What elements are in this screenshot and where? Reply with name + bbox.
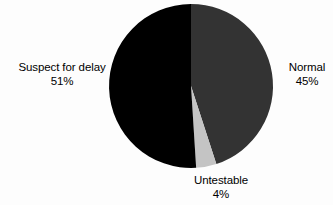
pie-label-suspect-for-delay-name: Suspect for delay xyxy=(12,61,112,75)
pie-label-untestable-name: Untestable xyxy=(182,174,260,188)
pie-slice-suspect xyxy=(109,4,196,168)
pie-label-untestable: Untestable 4% xyxy=(182,174,260,201)
pie-label-normal-value: 45% xyxy=(282,75,332,89)
pie-chart-graphic xyxy=(0,0,333,205)
pie-label-untestable-value: 4% xyxy=(182,188,260,202)
pie-label-suspect-for-delay: Suspect for delay 51% xyxy=(12,61,112,88)
pie-label-normal-name: Normal xyxy=(282,61,332,75)
pie-label-suspect-for-delay-value: 51% xyxy=(12,75,112,89)
pie-chart-figure: Suspect for delay 51% Normal 45% Untesta… xyxy=(0,0,333,205)
pie-label-normal: Normal 45% xyxy=(282,61,332,88)
